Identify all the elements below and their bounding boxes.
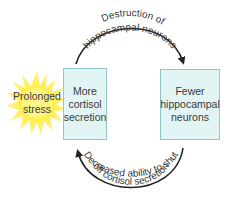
stressor-label: Prolonged stress [4,90,70,116]
node-label-line2: hippocampal [160,98,220,111]
node-fewer-hippocampal-neurons: Fewer hippocampal neurons [160,69,220,140]
node-label-line2: cortisol [64,98,107,111]
node-label-line1: Fewer [160,85,220,98]
stressor-label-line1: Prolonged [13,90,61,102]
node-label-line1: More [64,85,107,98]
stressor-label-line2: stress [23,103,51,115]
edge-label-top-line2: hippocampal neurons [81,21,179,50]
node-label-line3: secretion [64,111,107,124]
node-more-cortisol-secretion: More cortisol secretion [63,68,107,140]
node-label-line3: neurons [160,111,220,124]
